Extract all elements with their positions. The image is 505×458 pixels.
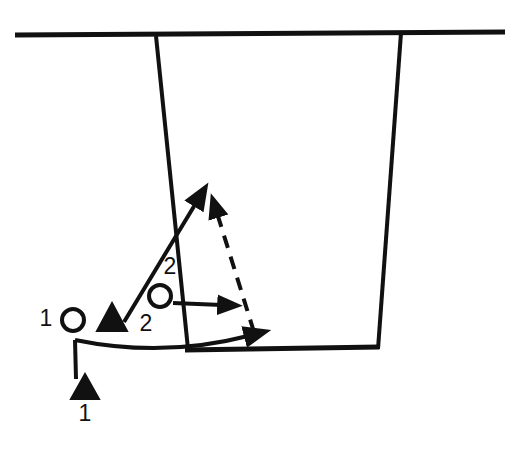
horizontal-pass-path [173, 303, 222, 305]
label-attacker-2-above: 2 [164, 253, 177, 279]
play-diagram-canvas: 1 2 2 1 [0, 0, 505, 458]
player-marker-defender-1[interactable] [97, 303, 127, 331]
play-diagram: 1 2 2 1 [0, 0, 505, 458]
bottom-goal-line [185, 347, 379, 350]
curved-run-path [75, 336, 248, 348]
label-defender-1-start: 1 [79, 400, 92, 426]
label-defender-2: 2 [140, 310, 153, 336]
stem-path [75, 340, 76, 379]
label-attacker-1: 1 [40, 305, 53, 331]
player-marker-attacker-2[interactable] [149, 285, 171, 307]
player-labels: 1 2 2 1 [40, 253, 177, 426]
top-touchline [15, 32, 505, 35]
dashed-run-path [217, 213, 254, 332]
right-vertical-line [378, 33, 401, 349]
player-marker-attacker-1[interactable] [62, 309, 84, 331]
pitch-markings [15, 32, 505, 350]
